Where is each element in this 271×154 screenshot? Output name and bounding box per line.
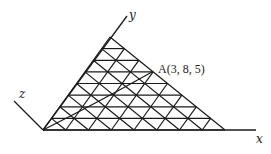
z-axis-label: z — [18, 87, 26, 101]
z-axis — [14, 101, 43, 130]
x-axis-label: x — [256, 132, 263, 146]
coordinate-diagram: x y z A(3, 8, 5) — [0, 0, 271, 154]
grid-line-parallel-right — [68, 95, 111, 130]
grid-line-parallel-left — [202, 118, 210, 130]
grid-line-parallel-right — [85, 72, 157, 130]
grid-line-parallel-right — [102, 49, 203, 130]
grid-line-parallel-left — [157, 95, 182, 130]
y-axis-label: y — [128, 8, 136, 22]
point-a-label: A(3, 8, 5) — [158, 62, 205, 76]
